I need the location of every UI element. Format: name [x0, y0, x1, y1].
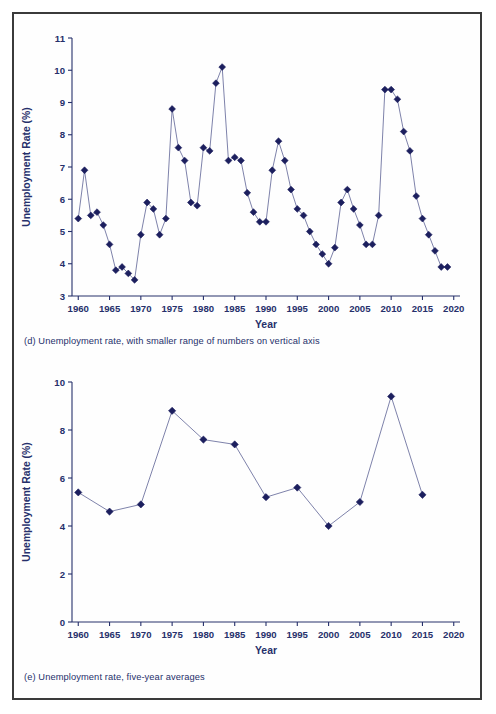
data-point-marker [75, 215, 82, 222]
x-tick-label: 1995 [287, 303, 309, 314]
x-tick-label: 1990 [255, 629, 276, 640]
x-tick-label: 2005 [349, 303, 371, 314]
data-point-marker [350, 206, 357, 213]
x-tick-label: 1965 [99, 303, 121, 314]
data-point-marker [313, 241, 320, 248]
x-tick-label: 1975 [161, 303, 183, 314]
data-point-marker [338, 199, 345, 206]
y-axis-title: Unemployment Rate (%) [21, 107, 32, 227]
data-point-marker [106, 241, 113, 248]
data-point-marker [319, 251, 326, 258]
data-point-marker [382, 86, 389, 93]
data-point-marker [81, 167, 88, 174]
caption-e: (e) Unemployment rate, five-year average… [24, 672, 205, 682]
x-tick-label: 1960 [68, 303, 89, 314]
data-line [78, 396, 422, 526]
data-point-marker [100, 222, 107, 229]
y-tick-label: 9 [60, 97, 65, 108]
y-tick-label: 4 [60, 521, 66, 532]
data-point-marker [438, 264, 445, 271]
data-point-marker [375, 212, 382, 219]
data-point-marker [87, 212, 94, 219]
data-point-marker [275, 138, 282, 145]
data-point-marker [288, 186, 295, 193]
data-point-marker [281, 157, 288, 164]
data-point-marker [137, 501, 144, 508]
x-tick-label: 1970 [130, 629, 151, 640]
data-point-marker [238, 157, 245, 164]
x-tick-label: 1985 [224, 629, 246, 640]
y-tick-label: 10 [54, 377, 65, 388]
data-point-marker [250, 209, 257, 216]
data-point-marker [75, 489, 82, 496]
data-point-marker [175, 144, 182, 151]
data-point-marker [425, 231, 432, 238]
data-point-marker [444, 264, 451, 271]
data-point-marker [388, 86, 395, 93]
data-point-marker [156, 231, 163, 238]
y-tick-label: 8 [60, 129, 66, 140]
data-point-marker [413, 193, 420, 200]
data-point-marker [231, 441, 238, 448]
x-tick-label: 2010 [380, 629, 401, 640]
data-point-marker [206, 147, 213, 154]
data-point-marker [262, 494, 269, 501]
y-axis-title: Unemployment Rate (%) [21, 442, 32, 562]
y-tick-label: 4 [60, 258, 66, 269]
data-point-marker [194, 202, 201, 209]
x-tick-label: 2010 [380, 303, 401, 314]
data-point-marker [94, 209, 101, 216]
chart-panel-e: 0246810196019651970197519801985199019952… [14, 364, 484, 700]
data-point-marker [169, 106, 176, 113]
data-point-marker [356, 498, 363, 505]
y-tick-label: 3 [60, 291, 65, 302]
y-tick-label: 6 [60, 473, 65, 484]
data-point-marker [137, 231, 144, 238]
data-point-marker [388, 393, 395, 400]
unemployment-rate-chart-full: 3456789101119601965197019751980198519901… [14, 14, 484, 336]
data-point-marker [344, 186, 351, 193]
data-point-marker [112, 267, 119, 274]
caption-d: (d) Unemployment rate, with smaller rang… [24, 336, 320, 346]
data-point-marker [400, 128, 407, 135]
unemployment-rate-chart-five-year-averages: 0246810196019651970197519801985199019952… [14, 364, 484, 672]
data-point-marker [263, 218, 270, 225]
x-tick-label: 1965 [99, 629, 121, 640]
data-line [78, 67, 447, 280]
x-tick-label: 1995 [287, 629, 309, 640]
data-point-marker [331, 244, 338, 251]
data-point-marker [213, 80, 220, 87]
data-point-marker [432, 247, 439, 254]
x-tick-label: 2020 [443, 629, 464, 640]
data-point-marker [219, 64, 226, 71]
chart-panel-d: 3456789101119601965197019751980198519901… [14, 14, 484, 364]
x-tick-label: 2005 [349, 629, 371, 640]
data-point-marker [225, 157, 232, 164]
data-point-marker [306, 228, 313, 235]
data-point-marker [419, 491, 426, 498]
data-point-marker [188, 199, 195, 206]
x-tick-label: 2015 [412, 629, 434, 640]
x-tick-label: 1970 [130, 303, 151, 314]
data-point-marker [363, 241, 370, 248]
y-tick-label: 11 [55, 33, 66, 44]
y-tick-label: 10 [54, 65, 65, 76]
x-tick-label: 1990 [255, 303, 276, 314]
data-point-marker [269, 167, 276, 174]
data-point-marker [231, 154, 238, 161]
y-tick-label: 0 [60, 617, 65, 628]
y-tick-label: 7 [60, 162, 65, 173]
data-point-marker [181, 157, 188, 164]
x-tick-label: 2000 [318, 303, 339, 314]
data-point-marker [244, 189, 251, 196]
data-point-marker [419, 215, 426, 222]
data-point-marker [162, 215, 169, 222]
y-tick-label: 6 [60, 194, 65, 205]
data-point-marker [407, 147, 414, 154]
data-point-marker [200, 144, 207, 151]
data-point-marker [369, 241, 376, 248]
x-axis-title: Year [255, 319, 277, 330]
figure-frame: 3456789101119601965197019751980198519901… [12, 12, 482, 700]
data-point-marker [325, 260, 332, 267]
data-point-marker [256, 218, 263, 225]
